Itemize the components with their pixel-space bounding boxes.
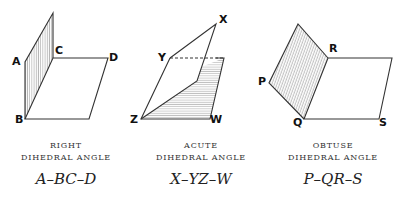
point-label-d: D xyxy=(109,52,118,63)
point-label-x: X xyxy=(219,14,227,25)
angle-name: P–QR–S xyxy=(266,170,400,188)
caption-subtitle: DIHEDRAL ANGLE xyxy=(134,152,268,164)
point-label-r: R xyxy=(329,43,337,54)
point-label-c: C xyxy=(55,45,63,56)
caption-right-dihedral: RIGHT DIHEDRAL ANGLE A–BC–D xyxy=(0,140,133,188)
acute-dihedral-figure xyxy=(141,24,224,119)
point-label-q: Q xyxy=(293,117,302,128)
point-label-z: Z xyxy=(130,114,138,125)
caption-acute-dihedral: ACUTE DIHEDRAL ANGLE X–YZ–W xyxy=(134,140,268,188)
right-dihedral-figure xyxy=(25,13,108,119)
angle-name: X–YZ–W xyxy=(134,170,268,188)
caption-type: OBTUSE xyxy=(266,140,400,152)
point-label-p: P xyxy=(258,76,266,87)
point-label-y: Y xyxy=(158,52,166,63)
point-label-s: S xyxy=(379,117,387,128)
point-label-b: B xyxy=(15,114,23,125)
obtuse-dihedral-figure xyxy=(269,24,392,119)
angle-name: A–BC–D xyxy=(0,170,133,188)
caption-type: ACUTE xyxy=(134,140,268,152)
caption-obtuse-dihedral: OBTUSE DIHEDRAL ANGLE P–QR–S xyxy=(266,140,400,188)
point-label-w: W xyxy=(210,114,222,125)
caption-subtitle: DIHEDRAL ANGLE xyxy=(0,152,133,164)
caption-type: RIGHT xyxy=(0,140,133,152)
point-label-a: A xyxy=(12,56,21,67)
caption-subtitle: DIHEDRAL ANGLE xyxy=(266,152,400,164)
